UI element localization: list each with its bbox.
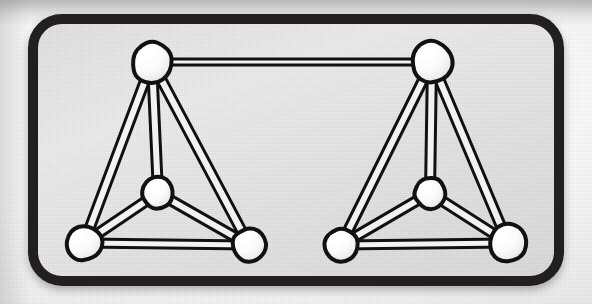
graph-node-r-apex[interactable] [413,41,453,83]
graph-node-l-center[interactable] [142,177,172,209]
graph-node-r-br[interactable] [490,224,526,262]
node-sphere [133,42,172,83]
node-highlight [417,48,435,62]
graph-node-l-br[interactable] [233,228,266,261]
node-sphere [324,229,357,262]
edge-tube-outline-a [84,247,249,249]
graph-node-l-apex[interactable] [133,42,172,83]
node-sphere [67,226,103,260]
node-highlight [419,182,432,193]
node-sphere [142,177,172,209]
node-highlight [71,231,86,243]
node-sphere [413,41,453,83]
node-sphere [490,224,526,262]
figure-stage [0,0,592,304]
node-highlight [147,182,160,193]
edge-tube-outline-a [341,247,508,249]
node-highlight [329,234,343,245]
edge-tube-outline-b [341,239,508,241]
node-highlight [495,230,511,243]
edge-l-bl-to-l-br[interactable] [84,239,249,249]
node-sphere [414,178,445,209]
node-highlight [137,48,155,62]
graph-node-r-center[interactable] [414,178,445,209]
linking-edge-l-apex-to-r-apex[interactable] [152,59,432,65]
edge-tube-outline-b [84,239,249,241]
node-highlight [237,234,251,245]
graph-node-l-bl[interactable] [67,226,103,260]
graph-node-r-bl[interactable] [324,229,357,262]
node-sphere [233,228,266,261]
edge-r-bl-to-r-br[interactable] [341,239,508,249]
